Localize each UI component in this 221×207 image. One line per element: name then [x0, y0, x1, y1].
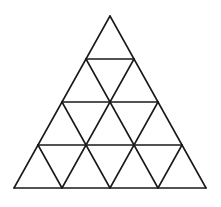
diagonal-line	[62, 102, 86, 145]
diagonal-line	[110, 102, 134, 145]
diagonal-line	[86, 16, 110, 59]
triangle-puzzle-figure	[0, 0, 221, 207]
diagonal-line	[86, 145, 110, 188]
diagonal-line	[182, 145, 206, 188]
diagonal-line	[134, 145, 158, 188]
diagonal-line	[62, 145, 86, 188]
diagonal-line	[38, 102, 62, 145]
diagonal-line	[134, 59, 158, 102]
triangle-grid	[0, 0, 221, 207]
diagonal-line	[158, 102, 182, 145]
diagonal-line	[14, 145, 38, 188]
diagonal-line	[86, 102, 110, 145]
diagonal-line	[110, 59, 134, 102]
diagonal-line	[110, 16, 134, 59]
diagonal-line	[86, 59, 110, 102]
diagonal-line	[62, 59, 86, 102]
diagonal-line	[158, 145, 182, 188]
diagonal-line	[38, 145, 62, 188]
diagonal-line	[110, 145, 134, 188]
diagonal-line	[134, 102, 158, 145]
